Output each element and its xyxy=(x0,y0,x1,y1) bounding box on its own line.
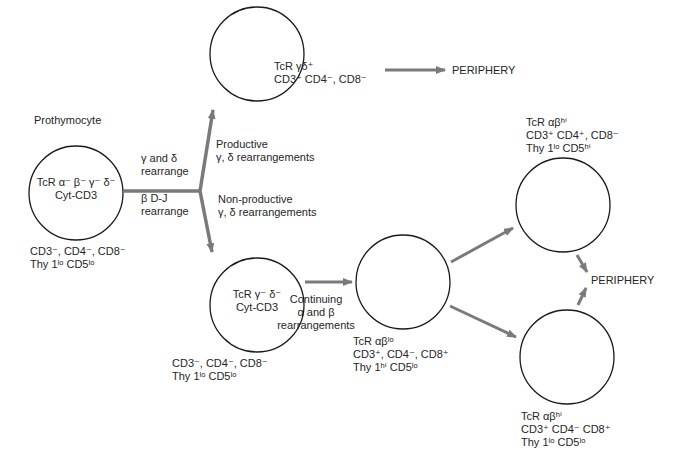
cd4-single-positive-markers: TcR αβʰⁱ CD3⁺ CD4⁺, CD8⁻ Thy 1ˡᵒ CD5ʰⁱ xyxy=(526,116,619,155)
arrow-to-cd4 xyxy=(451,228,513,262)
label-beta-dj-rearrange: β D-J rearrange xyxy=(141,192,189,218)
prothymocyte-inner-label: TcR α⁻ β⁻ γ⁻ δ⁻ Cyt-CD3 xyxy=(29,176,123,202)
label-gamma-delta-rearrange: γ and δ rearrange xyxy=(141,152,189,178)
alpha-beta-lo-markers: TcR αβˡᵒ CD3⁺, CD4⁻, CD8⁺ Thy 1ʰⁱ CD5ˡᵒ xyxy=(353,335,449,374)
gamma-delta-cell xyxy=(210,7,304,101)
cd8-single-positive-cell xyxy=(520,310,614,404)
label-continuing: Continuing α and β rearrangements xyxy=(268,293,364,332)
cd4-single-positive-cell xyxy=(516,158,610,252)
gamma-delta-negative-markers: CD3⁻, CD4⁻, CD8⁻ Thy 1ˡᵒ CD5ˡᵒ xyxy=(172,357,268,383)
prothymocyte-heading: Prothymocyte xyxy=(34,114,101,127)
label-non-productive: Non-productive γ, δ rearrangements xyxy=(218,193,316,219)
gamma-delta-markers: TcR γδ⁺ CD3⁺ CD4⁻, CD8⁻ xyxy=(274,60,367,86)
branch-arrows xyxy=(123,110,213,252)
arrow-to-cd8 xyxy=(450,306,516,337)
cd8-single-positive-markers: TcR αβʰⁱ CD3⁺ CD4⁻ CD8⁺ Thy 1ˡᵒ CD5ˡᵒ xyxy=(521,410,611,449)
prothymocyte-markers: CD3⁻, CD4⁻, CD8⁻ Thy 1ˡᵒ CD5ˡᵒ xyxy=(30,245,126,271)
periphery-right: PERIPHERY xyxy=(591,274,654,287)
arrow-cd8-to-periphery xyxy=(578,288,586,305)
periphery-top: PERIPHERY xyxy=(452,64,515,77)
alpha-beta-lo-cell xyxy=(356,235,450,329)
label-productive: Productive γ, δ rearrangements xyxy=(216,138,314,164)
arrow-cd4-to-periphery xyxy=(577,255,587,272)
